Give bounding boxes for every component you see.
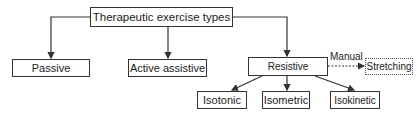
node-root: Therapeutic exercise types	[90, 7, 233, 27]
node-isokinetic: Isokinetic	[330, 91, 380, 109]
node-active-assistive: Active assistive	[128, 59, 207, 77]
node-passive: Passive	[12, 59, 90, 77]
edge-root-resistive	[233, 17, 287, 56]
edge-resistive-isotonic	[232, 76, 262, 90]
node-isotonic: Isotonic	[197, 91, 247, 109]
node-stretching: Stretching	[365, 58, 413, 75]
edge-root-passive	[51, 17, 90, 58]
node-resistive: Resistive	[248, 57, 328, 76]
node-isometric: Isometric	[262, 91, 310, 109]
edge-label-manual: Manual	[330, 51, 363, 62]
edge-resistive-isokinetic	[315, 76, 354, 90]
